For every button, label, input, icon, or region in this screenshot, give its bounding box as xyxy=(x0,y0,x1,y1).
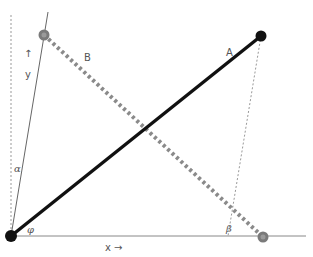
origin-point xyxy=(5,230,17,242)
vector-b-line xyxy=(44,35,263,237)
y-arrow-label: ↑ xyxy=(24,48,32,59)
phi-angle-label: φ xyxy=(27,224,34,235)
vector-diagram: B A ↑ y α φ β x → xyxy=(0,0,313,257)
tilted-y-axis-line xyxy=(11,12,48,236)
b-end-point-inner xyxy=(261,235,266,240)
x-axis-label: x → xyxy=(105,242,122,253)
y-axis-label: y xyxy=(25,69,31,80)
b-start-point-inner xyxy=(42,33,47,38)
vector-b-label: B xyxy=(84,52,91,63)
beta-angle-label: β xyxy=(225,223,232,234)
alpha-angle-label: α xyxy=(14,163,21,174)
vector-a-line xyxy=(11,36,261,236)
vector-a-label: A xyxy=(226,47,233,58)
a-projection-line xyxy=(228,36,261,236)
a-end-point xyxy=(256,31,267,42)
